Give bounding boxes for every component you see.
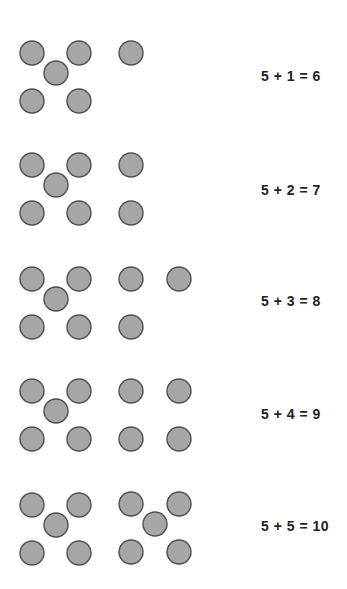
row-3-base-dot [44, 287, 68, 311]
equation-row-5: 5 + 5 = 10 [261, 518, 329, 534]
row-3-base-dot [20, 315, 44, 339]
row-2-base-dot [20, 201, 44, 225]
row-3-added-dot [119, 267, 143, 291]
equation-row-1: 5 + 1 = 6 [261, 68, 321, 84]
row-1-added-dot [119, 41, 143, 65]
row-5-base-dot [44, 513, 68, 537]
row-2-base-dot [67, 153, 91, 177]
row-2-base-dot [20, 153, 44, 177]
row-3-base-dot [67, 267, 91, 291]
equation-row-3: 5 + 3 = 8 [261, 293, 321, 309]
row-1-base-dot [67, 41, 91, 65]
row-3-added-dot [167, 267, 191, 291]
row-4-added-dot [167, 427, 191, 451]
row-4-base-dot [20, 427, 44, 451]
row-5-base-dot [67, 493, 91, 517]
row-4-base-dot [67, 379, 91, 403]
row-4-base-dot [44, 399, 68, 423]
row-5-added-dot [167, 492, 191, 516]
row-5-added-dot [143, 512, 167, 536]
row-3-base-dot [20, 267, 44, 291]
row-4-base-dot [67, 427, 91, 451]
row-4-added-dot [167, 379, 191, 403]
row-3-base-dot [67, 315, 91, 339]
row-2-base-dot [67, 201, 91, 225]
equation-row-4: 5 + 4 = 9 [261, 406, 321, 422]
row-1-base-dot [44, 61, 68, 85]
row-1-base-dot [67, 89, 91, 113]
row-5-added-dot [119, 540, 143, 564]
row-2-added-dot [119, 153, 143, 177]
row-2-base-dot [44, 173, 68, 197]
row-3-added-dot [119, 315, 143, 339]
row-1-base-dot [20, 89, 44, 113]
row-5-added-dot [119, 492, 143, 516]
row-5-added-dot [167, 540, 191, 564]
row-4-base-dot [20, 379, 44, 403]
row-1-base-dot [20, 41, 44, 65]
row-5-base-dot [67, 541, 91, 565]
row-4-added-dot [119, 379, 143, 403]
row-2-added-dot [119, 201, 143, 225]
row-5-base-dot [20, 541, 44, 565]
row-4-added-dot [119, 427, 143, 451]
row-5-base-dot [20, 493, 44, 517]
equation-row-2: 5 + 2 = 7 [261, 182, 321, 198]
